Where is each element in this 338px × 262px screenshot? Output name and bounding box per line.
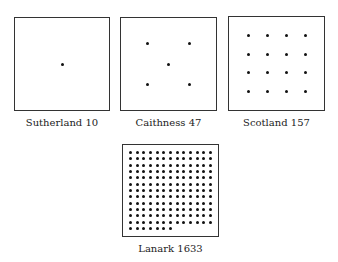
dot-marker <box>189 221 192 224</box>
dot-marker <box>136 202 139 205</box>
dot-marker <box>162 189 165 192</box>
dot-marker <box>156 214 159 217</box>
dot-marker <box>136 151 139 154</box>
dot-marker <box>156 164 159 167</box>
dot-marker <box>169 208 172 211</box>
dot-marker <box>196 202 199 205</box>
dot-marker <box>156 208 159 211</box>
dot-marker <box>129 221 132 224</box>
dot-marker <box>142 157 145 160</box>
dot-marker <box>209 176 212 179</box>
dot-marker <box>176 202 179 205</box>
dot-marker <box>146 42 149 45</box>
dot-marker <box>162 176 165 179</box>
dot-marker <box>176 195 179 198</box>
dot-marker <box>156 151 159 154</box>
dot-marker <box>156 227 159 230</box>
dot-marker <box>136 183 139 186</box>
dot-marker <box>136 227 139 230</box>
dot-marker <box>196 221 199 224</box>
dot-marker <box>156 176 159 179</box>
dot-marker <box>129 214 132 217</box>
dot-marker <box>202 208 205 211</box>
dot-marker <box>169 189 172 192</box>
dot-marker <box>189 202 192 205</box>
dot-marker <box>266 71 269 74</box>
dot-marker <box>149 151 152 154</box>
dot-marker <box>209 151 212 154</box>
dot-marker <box>182 221 185 224</box>
dot-marker <box>162 164 165 167</box>
dot-marker <box>149 176 152 179</box>
dot-marker <box>189 189 192 192</box>
panel-scotland <box>228 16 325 111</box>
dot-marker <box>189 164 192 167</box>
dot-marker <box>169 157 172 160</box>
dot-marker <box>285 71 288 74</box>
dot-marker <box>176 221 179 224</box>
dot-marker <box>156 202 159 205</box>
panel-caithness <box>120 17 217 111</box>
dot-marker <box>209 214 212 217</box>
dot-marker <box>285 90 288 93</box>
dot-marker <box>142 170 145 173</box>
dot-marker <box>142 208 145 211</box>
dot-marker <box>189 151 192 154</box>
dot-marker <box>136 157 139 160</box>
dot-marker <box>129 227 132 230</box>
dot-marker <box>176 208 179 211</box>
dot-marker <box>149 164 152 167</box>
dot-marker <box>169 164 172 167</box>
dot-marker <box>202 164 205 167</box>
dot-marker <box>136 195 139 198</box>
dot-marker <box>129 164 132 167</box>
dot-marker <box>209 170 212 173</box>
dot-marker <box>169 170 172 173</box>
dot-marker <box>176 151 179 154</box>
dot-marker <box>182 151 185 154</box>
dot-marker <box>149 227 152 230</box>
caption-caithness: Caithness 47 <box>120 117 217 128</box>
dot-marker <box>162 214 165 217</box>
dot-marker <box>209 202 212 205</box>
dot-marker <box>182 157 185 160</box>
dot-marker <box>182 195 185 198</box>
dot-marker <box>209 221 212 224</box>
dot-marker <box>156 189 159 192</box>
caption-lanark: Lanark 1633 <box>122 243 219 254</box>
dot-marker <box>149 157 152 160</box>
dot-marker <box>169 202 172 205</box>
dot-marker <box>189 208 192 211</box>
dot-marker <box>129 183 132 186</box>
dot-marker <box>162 183 165 186</box>
dot-marker <box>149 214 152 217</box>
dot-marker <box>176 176 179 179</box>
dot-marker <box>304 90 307 93</box>
dot-marker <box>176 189 179 192</box>
dot-marker <box>149 208 152 211</box>
dot-marker <box>162 227 165 230</box>
dot-marker <box>129 170 132 173</box>
dot-marker <box>189 170 192 173</box>
dot-marker <box>162 195 165 198</box>
dot-marker <box>202 176 205 179</box>
dot-marker <box>304 53 307 56</box>
dot-marker <box>196 208 199 211</box>
dot-marker <box>142 151 145 154</box>
dot-marker <box>149 170 152 173</box>
dot-marker <box>136 221 139 224</box>
dot-marker <box>149 221 152 224</box>
dot-marker <box>169 183 172 186</box>
dot-marker <box>156 195 159 198</box>
dot-marker <box>142 195 145 198</box>
dot-marker <box>176 157 179 160</box>
dot-marker <box>304 71 307 74</box>
dot-marker <box>189 195 192 198</box>
dot-marker <box>142 214 145 217</box>
dot-marker <box>196 195 199 198</box>
dot-marker <box>142 183 145 186</box>
dot-marker <box>136 176 139 179</box>
dot-marker <box>136 164 139 167</box>
dot-marker <box>247 90 250 93</box>
dot-marker <box>129 195 132 198</box>
